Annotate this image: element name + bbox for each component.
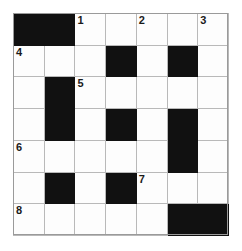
- crossword-row: 8: [14, 204, 229, 236]
- crossword-cell[interactable]: [75, 172, 106, 204]
- crossword-cell[interactable]: [198, 77, 229, 109]
- crossword-row: 4: [14, 45, 229, 77]
- cell-number: 3: [200, 14, 206, 27]
- cell-number: 6: [16, 141, 22, 154]
- crossword-cell[interactable]: [136, 109, 167, 141]
- crossword-cell[interactable]: [198, 109, 229, 141]
- crossword-block-cell: [106, 172, 137, 204]
- crossword-row: 123: [14, 14, 229, 46]
- crossword-cell[interactable]: [106, 140, 137, 172]
- crossword-cell[interactable]: [106, 14, 137, 46]
- crossword-cell[interactable]: [136, 204, 167, 236]
- crossword-cell[interactable]: [44, 204, 75, 236]
- crossword-cell[interactable]: 5: [75, 77, 106, 109]
- crossword-cell[interactable]: 8: [14, 204, 45, 236]
- crossword-cell[interactable]: 1: [75, 14, 106, 46]
- crossword-row: 5: [14, 77, 229, 109]
- crossword-grid[interactable]: 12345678: [13, 13, 228, 235]
- crossword-block-cell: [44, 109, 75, 141]
- crossword-row: 6: [14, 140, 229, 172]
- crossword-row: [14, 109, 229, 141]
- crossword-table[interactable]: 12345678: [13, 13, 229, 236]
- crossword-cell[interactable]: [136, 140, 167, 172]
- crossword-cell[interactable]: [75, 45, 106, 77]
- cell-number: 2: [139, 14, 145, 27]
- crossword-cell[interactable]: [75, 140, 106, 172]
- crossword-cell[interactable]: [106, 204, 137, 236]
- crossword-cell[interactable]: [167, 77, 198, 109]
- crossword-block-cell: [106, 109, 137, 141]
- cell-number: 7: [139, 173, 145, 186]
- crossword-block-cell: [198, 204, 229, 236]
- crossword-cell[interactable]: [198, 140, 229, 172]
- crossword-cell[interactable]: 6: [14, 140, 45, 172]
- crossword-cell[interactable]: [44, 140, 75, 172]
- crossword-cell[interactable]: [167, 14, 198, 46]
- cell-number: 5: [77, 77, 83, 90]
- cell-number: 1: [77, 14, 83, 27]
- crossword-cell[interactable]: [136, 77, 167, 109]
- crossword-cell[interactable]: [14, 77, 45, 109]
- crossword-body: 12345678: [14, 14, 229, 236]
- crossword-cell[interactable]: [198, 45, 229, 77]
- crossword-cell[interactable]: [75, 204, 106, 236]
- crossword-block-cell: [167, 140, 198, 172]
- cell-number: 4: [16, 46, 22, 59]
- crossword-cell[interactable]: [14, 109, 45, 141]
- crossword-cell[interactable]: [106, 77, 137, 109]
- crossword-cell[interactable]: 7: [136, 172, 167, 204]
- crossword-cell[interactable]: 2: [136, 14, 167, 46]
- crossword-block-cell: [44, 77, 75, 109]
- crossword-cell[interactable]: [167, 172, 198, 204]
- crossword-row: 7: [14, 172, 229, 204]
- crossword-cell[interactable]: 3: [198, 14, 229, 46]
- crossword-block-cell: [44, 14, 75, 46]
- crossword-block-cell: [167, 109, 198, 141]
- crossword-block-cell: [167, 45, 198, 77]
- crossword-block-cell: [167, 204, 198, 236]
- cell-number: 8: [16, 204, 22, 217]
- crossword-block-cell: [106, 45, 137, 77]
- crossword-cell[interactable]: [75, 109, 106, 141]
- crossword-block-cell: [14, 14, 45, 46]
- crossword-cell[interactable]: 4: [14, 45, 45, 77]
- crossword-cell[interactable]: [14, 172, 45, 204]
- crossword-block-cell: [44, 172, 75, 204]
- crossword-cell[interactable]: [198, 172, 229, 204]
- crossword-cell[interactable]: [136, 45, 167, 77]
- crossword-cell[interactable]: [44, 45, 75, 77]
